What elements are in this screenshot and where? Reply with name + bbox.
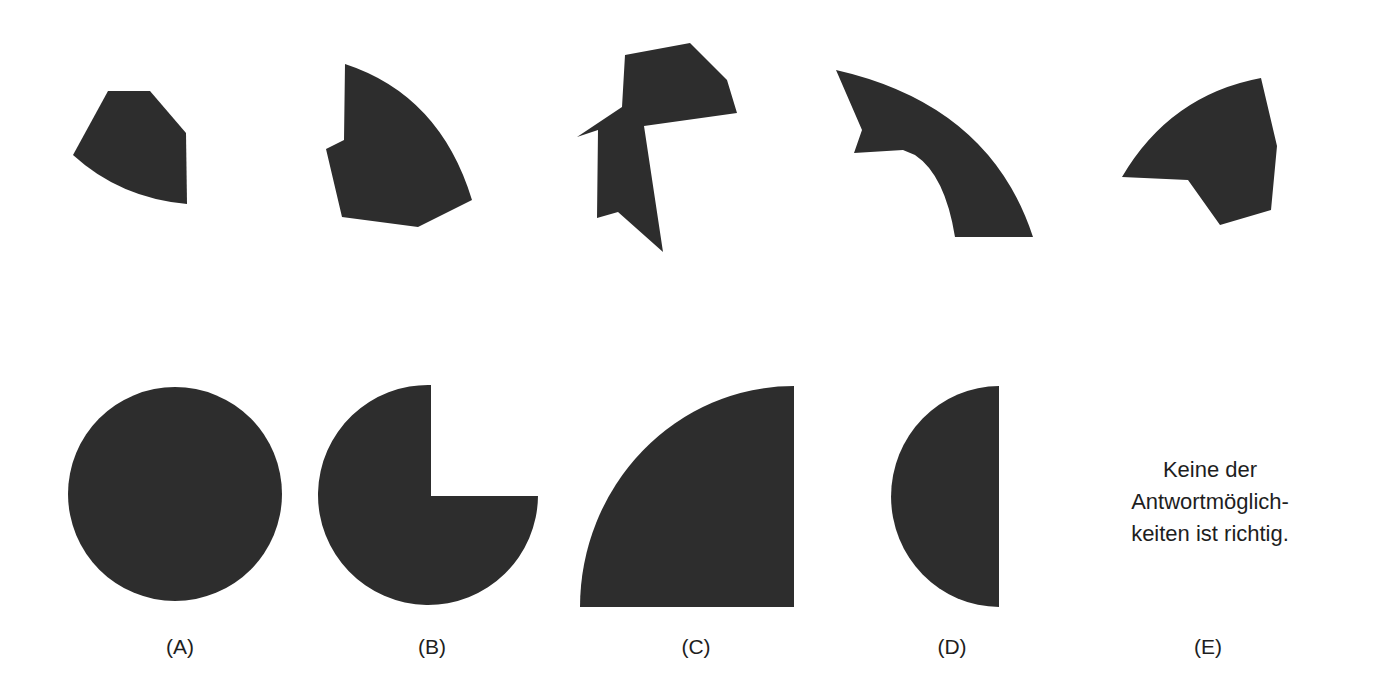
option-d-shape[interactable] xyxy=(891,386,999,607)
option-b-shape[interactable] xyxy=(318,385,538,605)
piece-4-shape xyxy=(836,70,1033,237)
option-a-shape[interactable] xyxy=(68,387,282,601)
answers-row xyxy=(68,385,999,607)
piece-3-shape xyxy=(577,43,737,252)
option-e-line-2: Antwortmöglich- xyxy=(1100,486,1320,518)
pieces-row xyxy=(73,43,1277,252)
piece-2-shape xyxy=(326,64,472,227)
shapes-layer xyxy=(0,0,1374,693)
option-d-label[interactable]: (D) xyxy=(922,633,982,661)
option-c-label[interactable]: (C) xyxy=(666,633,726,661)
option-e-label[interactable]: (E) xyxy=(1178,633,1238,661)
option-a-label[interactable]: (A) xyxy=(150,633,210,661)
option-e-line-1: Keine der xyxy=(1100,454,1320,486)
option-e-text[interactable]: Keine der Antwortmöglich- keiten ist ric… xyxy=(1100,454,1320,550)
option-c-shape[interactable] xyxy=(580,386,794,607)
puzzle-canvas: Keine der Antwortmöglich- keiten ist ric… xyxy=(0,0,1374,693)
piece-1-shape xyxy=(73,91,187,204)
option-b-label[interactable]: (B) xyxy=(402,633,462,661)
option-e-line-3: keiten ist richtig. xyxy=(1100,518,1320,550)
piece-5-shape xyxy=(1122,78,1277,225)
